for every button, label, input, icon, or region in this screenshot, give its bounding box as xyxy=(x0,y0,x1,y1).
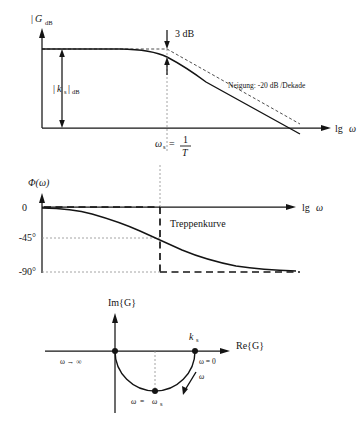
magnitude-gain-label-main: k xyxy=(57,83,62,94)
nyquist-real-axis-label: Re{G} xyxy=(236,340,264,351)
nyquist-imaginary-axis-label: Im{G} xyxy=(108,297,136,308)
nyquist-real-axis-arrow-icon xyxy=(220,348,230,354)
phase-x-axis-label-lg: lg xyxy=(302,202,310,213)
phase-exact-curve xyxy=(42,208,296,271)
nyquist-gain-label-sub: s xyxy=(196,336,199,343)
nyquist-point-omega-infinity xyxy=(112,348,118,354)
nyquist-direction-arrow-icon xyxy=(182,372,196,395)
magnitude-gain-label-gain-sub: s xyxy=(64,88,67,95)
nyquist-omega-corner-left: ω xyxy=(131,397,136,406)
phase-tick-label-minus45: -45° xyxy=(19,232,36,243)
magnitude-exact-curve xyxy=(42,49,300,134)
magnitude-gain-bar-left: | xyxy=(53,83,55,94)
magnitude-3db-indicator xyxy=(164,30,170,75)
corner-fraction-denominator: T xyxy=(182,147,189,158)
phase-staircase-curve xyxy=(44,207,300,272)
phase-y-axis-label: Φ(ω) xyxy=(28,177,50,189)
nyquist-gain-label-main: k xyxy=(189,331,194,342)
nyquist-omega-infinity-label: ω → ∞ xyxy=(60,357,82,366)
phase-x-axis-label: lg ω xyxy=(302,202,323,213)
magnitude-x-axis-label: lg ω xyxy=(335,123,356,134)
magnitude-y-axis-label-sub: dB xyxy=(45,19,53,26)
nyquist-omega-corner-sub: s xyxy=(160,400,163,407)
magnitude-plot-panel: | G dB lg ω 3 dB | k xyxy=(0,0,363,165)
corner-omega-sub: s xyxy=(163,143,166,150)
nyquist-omega-corner-right: ω xyxy=(152,397,157,406)
magnitude-gain-label: | k s | dB xyxy=(53,83,80,95)
magnitude-x-axis-arrow-icon xyxy=(321,125,331,131)
corner-equals-sign: = xyxy=(169,138,175,149)
magnitude-y-axis-label: | G dB xyxy=(31,13,53,26)
nyquist-gain-point-label: k s xyxy=(189,331,199,343)
phase-plot-panel: Φ(ω) lg ω 0 -45° -90° Treppenkurve xyxy=(0,165,363,285)
magnitude-gain-label-unit-sub: dB xyxy=(72,88,80,95)
nyquist-imaginary-axis-arrow-icon xyxy=(112,313,118,323)
phase-tick-label-minus90: -90° xyxy=(19,266,36,277)
nyquist-omega-corner-label: ω = ω s xyxy=(131,397,163,407)
magnitude-3db-label: 3 dB xyxy=(175,28,195,39)
magnitude-y-axis-arrow-icon xyxy=(39,28,45,38)
corner-omega-symbol: ω xyxy=(155,138,162,149)
nyquist-omega-zero-label: ω = 0 xyxy=(199,357,216,366)
corner-fraction-numerator: 1 xyxy=(183,134,188,145)
phase-tick-label-0: 0 xyxy=(22,202,27,213)
nyquist-direction-arrow-label: ω xyxy=(199,372,204,381)
nyquist-omega-corner-equals: = xyxy=(140,397,144,406)
magnitude-y-axis-label-main: G xyxy=(35,13,42,24)
phase-x-axis-arrow-icon xyxy=(286,204,296,210)
phase-y-axis-arrow-icon xyxy=(39,193,45,203)
magnitude-y-axis-bar-left: | xyxy=(31,13,33,24)
magnitude-gain-bar-right: | xyxy=(68,83,70,94)
phase-staircase-label: Treppenkurve xyxy=(170,218,226,229)
magnitude-x-axis-label-lg: lg xyxy=(335,123,343,134)
magnitude-corner-frequency-label: ω s = 1 T xyxy=(155,134,191,158)
nyquist-point-omega-zero xyxy=(192,348,198,354)
nyquist-point-omega-corner xyxy=(152,388,158,394)
magnitude-slope-label: Neigung: -20 dB /Dekade xyxy=(228,81,306,90)
magnitude-x-axis-label-omega: ω xyxy=(349,123,356,134)
nyquist-plot-panel: Im{G} Re{G} k s ω → ∞ ω = 0 ω = ω s ω xyxy=(0,285,363,426)
phase-x-axis-label-omega: ω xyxy=(316,202,323,213)
bode-nyquist-figure: | G dB lg ω 3 dB | k xyxy=(0,0,363,426)
